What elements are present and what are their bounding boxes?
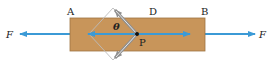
force-label-right: F bbox=[258, 29, 267, 40]
label-d: D bbox=[149, 6, 157, 17]
point-p-marker bbox=[135, 32, 139, 36]
label-p: P bbox=[139, 37, 146, 48]
tension-rod-diagram: F F A D B θ P bbox=[0, 0, 275, 66]
label-a: A bbox=[66, 6, 75, 17]
label-b: B bbox=[201, 6, 208, 17]
force-label-left: F bbox=[5, 29, 14, 40]
label-theta: θ bbox=[113, 21, 120, 32]
